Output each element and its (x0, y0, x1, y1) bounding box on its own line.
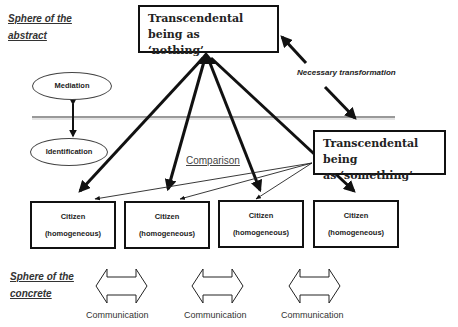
necessary-transformation-label: Necessary transformation (297, 68, 396, 77)
top-box-line1: Transcendental being as (148, 11, 269, 43)
citizen-box-2: Citizen (homogeneous) (124, 201, 210, 249)
transformation-arrow-down (325, 87, 355, 118)
citizen-4-title: Citizen (315, 211, 397, 220)
citizen-3-title: Citizen (220, 211, 302, 220)
communication-label-3: Communication (281, 310, 344, 320)
diagram-canvas: Sphere of the abstract Sphere of the con… (0, 0, 458, 327)
comparison-arrow-3 (256, 163, 312, 199)
sphere-abstract-line1: Sphere of the (8, 10, 72, 27)
communication-arrow-2 (192, 269, 243, 303)
right-box-line1: Transcendental being (323, 136, 436, 168)
communication-label-1: Communication (86, 310, 149, 320)
identification-label: Identification (46, 147, 93, 156)
transcendental-nothing-box: Transcendental being as ‘nothing’ (138, 5, 279, 53)
communication-arrow-1 (96, 269, 147, 303)
citizen-4-subtitle: (homogeneous) (315, 228, 397, 237)
sphere-abstract-line2: abstract (8, 27, 72, 44)
sphere-concrete-label: Sphere of the concrete (10, 268, 74, 302)
citizen-2-subtitle: (homogeneous) (126, 229, 208, 238)
identification-ellipse: Identification (30, 138, 108, 166)
comparison-label: Comparison (186, 155, 240, 166)
comparison-arrow-1 (95, 163, 312, 199)
sphere-concrete-line2: concrete (10, 285, 74, 302)
sphere-concrete-line1: Sphere of the (10, 268, 74, 285)
comparison-arrow-2 (180, 163, 312, 199)
citizen-2-title: Citizen (126, 212, 208, 221)
transformation-arrow-up (282, 37, 306, 63)
communication-arrow-3 (289, 269, 340, 303)
transcendental-something-box: Transcendental being as ‘something’ (313, 130, 446, 175)
communication-label-2: Communication (184, 310, 247, 320)
citizen-box-4: Citizen (homogeneous) (313, 200, 399, 248)
citizen-box-1: Citizen (homogeneous) (30, 201, 116, 249)
right-box-line2: as ‘something’ (323, 168, 436, 184)
sphere-abstract-label: Sphere of the abstract (8, 10, 72, 44)
mediation-ellipse: Mediation (32, 72, 112, 100)
citizen-3-subtitle: (homogeneous) (220, 228, 302, 237)
citizen-box-3: Citizen (homogeneous) (218, 200, 304, 248)
mediation-label: Mediation (55, 81, 90, 90)
citizen-1-subtitle: (homogeneous) (32, 229, 114, 238)
top-box-line2: ‘nothing’ (148, 43, 269, 59)
citizen-1-title: Citizen (32, 212, 114, 221)
